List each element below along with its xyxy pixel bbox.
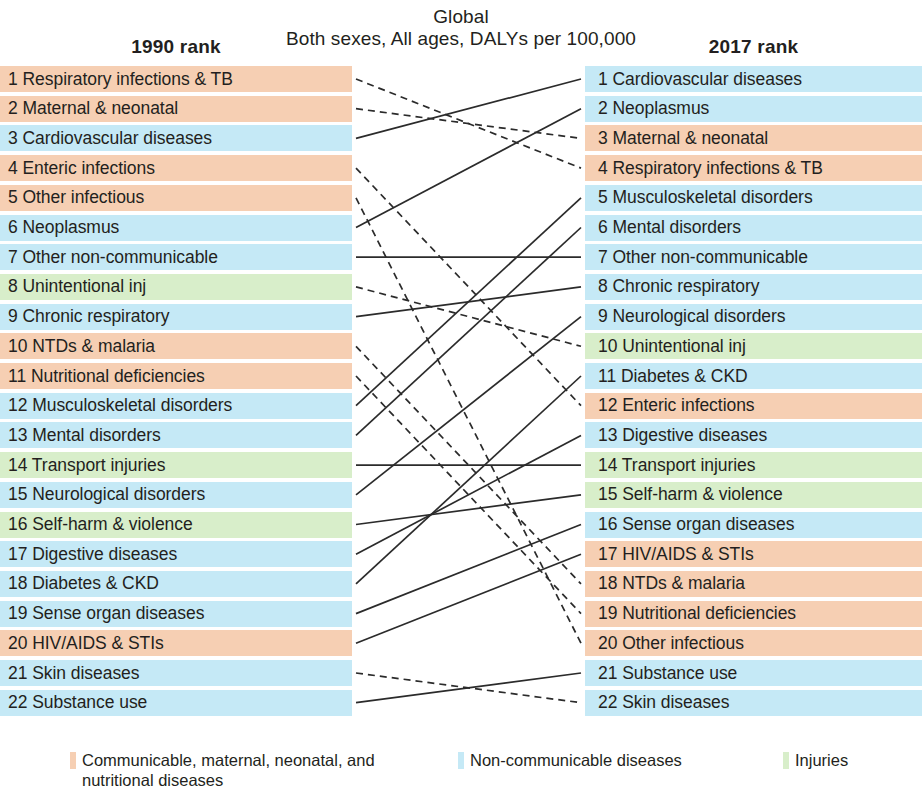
rank-row-left-6[interactable]: 6 Neoplasmus: [0, 215, 352, 241]
rank-row-label: 11 Nutritional deficiencies: [8, 366, 205, 387]
rank-row-right-3[interactable]: 3 Maternal & neonatal: [585, 125, 922, 151]
rank-row-label: 21 Substance use: [598, 663, 737, 684]
rank-row-label: 3 Maternal & neonatal: [598, 128, 768, 149]
rank-row-right-6[interactable]: 6 Mental disorders: [585, 215, 922, 241]
right-column-header: 2017 rank: [585, 36, 922, 58]
rank-row-label: 9 Chronic respiratory: [8, 306, 169, 327]
rank-row-label: 12 Musculoskeletal disorders: [8, 395, 232, 416]
rank-row-left-18[interactable]: 18 Diabetes & CKD: [0, 571, 352, 597]
rank-row-left-12[interactable]: 12 Musculoskeletal disorders: [0, 393, 352, 419]
rank-row-right-4[interactable]: 4 Respiratory infections & TB: [585, 155, 922, 181]
rank-row-left-16[interactable]: 16 Self-harm & violence: [0, 512, 352, 538]
rank-row-label: 15 Self-harm & violence: [598, 484, 783, 505]
rank-row-right-21[interactable]: 21 Substance use: [585, 660, 922, 686]
rank-row-label: 22 Substance use: [8, 692, 147, 713]
rank-row-left-8[interactable]: 8 Unintentional inj: [0, 274, 352, 300]
rank-row-label: 6 Neoplasmus: [8, 217, 119, 238]
rank-row-right-20[interactable]: 20 Other infectious: [585, 630, 922, 656]
rank-row-left-20[interactable]: 20 HIV/AIDS & STIs: [0, 630, 352, 656]
rank-row-right-2[interactable]: 2 Neoplasmus: [585, 96, 922, 122]
connector-line: [356, 554, 581, 643]
rank-row-label: 8 Unintentional inj: [8, 276, 146, 297]
rank-row-label: 7 Other non-communicable: [8, 247, 218, 268]
rank-row-left-5[interactable]: 5 Other infectious: [0, 185, 352, 211]
rank-row-left-7[interactable]: 7 Other non-communicable: [0, 244, 352, 270]
rank-row-right-19[interactable]: 19 Nutritional deficiencies: [585, 601, 922, 627]
rank-row-label: 8 Chronic respiratory: [598, 276, 759, 297]
rank-row-label: 19 Sense organ diseases: [8, 603, 204, 624]
rank-row-left-22[interactable]: 22 Substance use: [0, 690, 352, 716]
legend-swatch-icon: [70, 752, 76, 769]
rank-row-label: 14 Transport injuries: [598, 455, 756, 476]
connector-line: [356, 109, 581, 139]
rank-row-left-14[interactable]: 14 Transport injuries: [0, 452, 352, 478]
rank-row-label: 16 Sense organ diseases: [598, 514, 794, 535]
rank-row-right-11[interactable]: 11 Diabetes & CKD: [585, 363, 922, 389]
rank-change-chart: Global Both sexes, All ages, DALYs per 1…: [0, 0, 922, 795]
legend-item-0: Communicable, maternal, neonatal, and nu…: [70, 750, 412, 791]
rank-row-left-17[interactable]: 17 Digestive diseases: [0, 541, 352, 567]
connector-line: [356, 376, 581, 614]
rank-row-label: 5 Musculoskeletal disorders: [598, 187, 813, 208]
legend-label: Injuries: [795, 750, 848, 770]
connector-line: [356, 435, 581, 554]
legend-item-2: Injuries: [783, 750, 848, 770]
rank-row-label: 7 Other non-communicable: [598, 247, 808, 268]
legend-label: Communicable, maternal, neonatal, and nu…: [82, 750, 412, 791]
rank-row-label: 9 Neurological disorders: [598, 306, 786, 327]
connector-line: [356, 287, 581, 346]
legend-label: Non-communicable diseases: [470, 750, 682, 770]
rank-row-label: 16 Self-harm & violence: [8, 514, 193, 535]
connector-line: [356, 109, 581, 228]
rank-row-label: 20 Other infectious: [598, 633, 744, 654]
rank-row-label: 20 HIV/AIDS & STIs: [8, 633, 164, 654]
connector-line: [356, 376, 581, 584]
rank-row-left-1[interactable]: 1 Respiratory infections & TB: [0, 66, 352, 92]
legend-swatch-icon: [458, 752, 464, 769]
rank-row-right-17[interactable]: 17 HIV/AIDS & STIs: [585, 541, 922, 567]
connector-line: [356, 228, 581, 436]
rank-row-label: 4 Respiratory infections & TB: [598, 158, 823, 179]
rank-row-left-21[interactable]: 21 Skin diseases: [0, 660, 352, 686]
connector-line: [356, 673, 581, 703]
rank-row-right-15[interactable]: 15 Self-harm & violence: [585, 482, 922, 508]
rank-row-left-19[interactable]: 19 Sense organ diseases: [0, 601, 352, 627]
connector-line: [356, 525, 581, 614]
rank-row-left-3[interactable]: 3 Cardiovascular diseases: [0, 125, 352, 151]
rank-row-label: 1 Cardiovascular diseases: [598, 69, 802, 90]
rank-row-left-13[interactable]: 13 Mental disorders: [0, 422, 352, 448]
rank-row-left-9[interactable]: 9 Chronic respiratory: [0, 304, 352, 330]
connector-line: [356, 79, 581, 138]
rank-row-right-14[interactable]: 14 Transport injuries: [585, 452, 922, 478]
rank-row-label: 4 Enteric infections: [8, 158, 155, 179]
rank-row-right-5[interactable]: 5 Musculoskeletal disorders: [585, 185, 922, 211]
rank-row-right-12[interactable]: 12 Enteric infections: [585, 393, 922, 419]
rank-row-label: 17 Digestive diseases: [8, 544, 177, 565]
rank-row-right-7[interactable]: 7 Other non-communicable: [585, 244, 922, 270]
connector-line: [356, 198, 581, 406]
rank-row-left-10[interactable]: 10 NTDs & malaria: [0, 333, 352, 359]
rank-row-right-8[interactable]: 8 Chronic respiratory: [585, 274, 922, 300]
rank-row-left-15[interactable]: 15 Neurological disorders: [0, 482, 352, 508]
rank-row-label: 14 Transport injuries: [8, 455, 166, 476]
connector-line: [356, 198, 581, 644]
connector-line: [356, 79, 581, 168]
rank-row-right-18[interactable]: 18 NTDs & malaria: [585, 571, 922, 597]
rank-row-label: 3 Cardiovascular diseases: [8, 128, 212, 149]
rank-row-left-11[interactable]: 11 Nutritional deficiencies: [0, 363, 352, 389]
rank-row-right-13[interactable]: 13 Digestive diseases: [585, 422, 922, 448]
legend: Communicable, maternal, neonatal, and nu…: [0, 746, 922, 795]
rank-row-right-9[interactable]: 9 Neurological disorders: [585, 304, 922, 330]
left-column-header: 1990 rank: [0, 36, 352, 58]
rank-row-right-10[interactable]: 10 Unintentional inj: [585, 333, 922, 359]
rank-row-label: 10 Unintentional inj: [598, 336, 746, 357]
rank-row-right-16[interactable]: 16 Sense organ diseases: [585, 512, 922, 538]
rank-row-left-4[interactable]: 4 Enteric infections: [0, 155, 352, 181]
connector-line: [356, 287, 581, 317]
connector-line: [356, 495, 581, 525]
rank-row-label: 13 Mental disorders: [8, 425, 161, 446]
rank-row-right-22[interactable]: 22 Skin diseases: [585, 690, 922, 716]
rank-row-label: 18 NTDs & malaria: [598, 573, 745, 594]
rank-row-left-2[interactable]: 2 Maternal & neonatal: [0, 96, 352, 122]
rank-row-right-1[interactable]: 1 Cardiovascular diseases: [585, 66, 922, 92]
